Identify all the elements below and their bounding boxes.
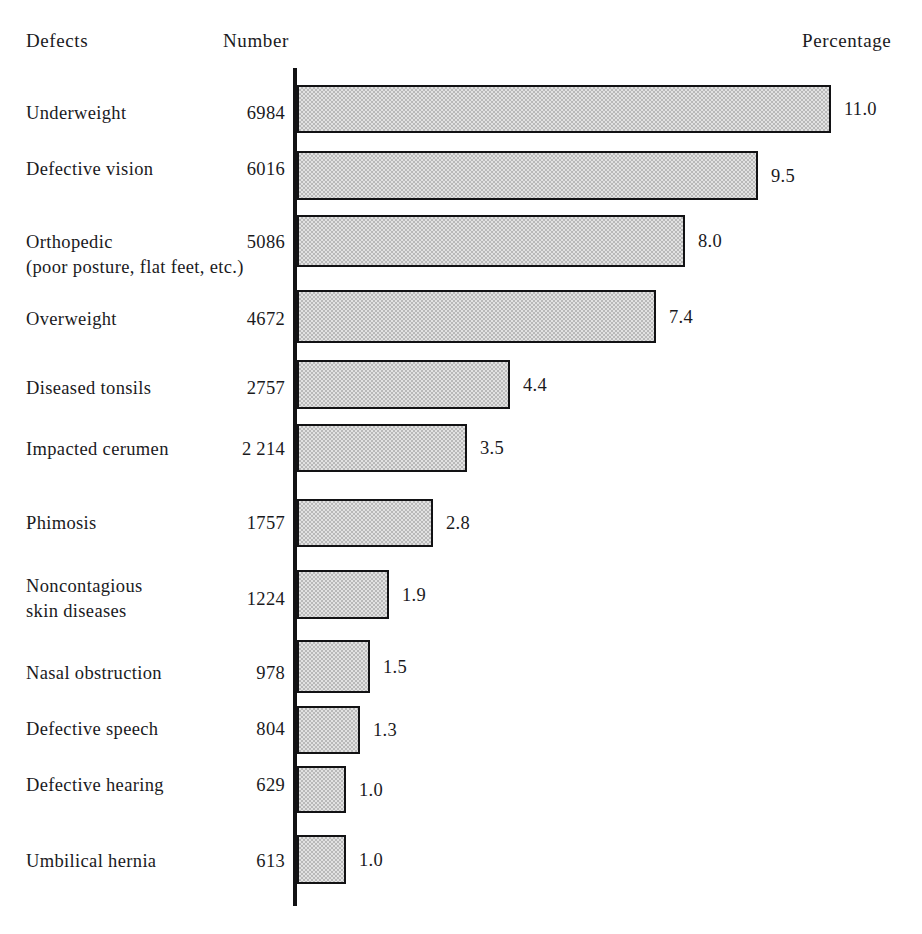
bar (297, 706, 360, 754)
bar (297, 835, 346, 884)
bar (297, 424, 467, 472)
bar-row-number: 1224 (180, 587, 285, 612)
bar (297, 640, 370, 693)
column-header-number: Number (223, 30, 289, 52)
bar (297, 85, 831, 133)
bar-row-number: 2 214 (180, 437, 285, 462)
bar-value-label: 1.3 (373, 721, 397, 740)
bar-row-number: 629 (180, 773, 285, 798)
bar (297, 360, 510, 409)
bar-chart-figure: Defects Number Percentage Underweight698… (0, 0, 922, 934)
bar-row-number: 6984 (180, 101, 285, 126)
bar (297, 290, 656, 343)
bar-value-label: 1.0 (359, 851, 383, 870)
bar-value-label: 1.9 (402, 586, 426, 605)
bar-value-label: 1.0 (359, 781, 383, 800)
bar-row-number: 1757 (180, 511, 285, 536)
bar-row-number: 613 (180, 849, 285, 874)
bar-value-label: 1.5 (383, 658, 407, 677)
column-header-defects: Defects (26, 30, 88, 52)
bar-value-label: 9.5 (771, 167, 795, 186)
bar-value-label: 2.8 (446, 514, 470, 533)
bar (297, 151, 758, 200)
bar (297, 570, 389, 619)
column-header-percentage: Percentage (802, 30, 891, 52)
bar (297, 499, 433, 547)
bar-value-label: 7.4 (669, 308, 693, 327)
bar-row-number: 4672 (180, 307, 285, 332)
bar-value-label: 3.5 (480, 439, 504, 458)
bar-row-number: 978 (180, 661, 285, 686)
bar-row-number: 5086 (180, 230, 285, 255)
bar-row-number: 6016 (180, 157, 285, 182)
bar-row-number: 2757 (180, 376, 285, 401)
bar-value-label: 4.4 (523, 376, 547, 395)
bar-row-number: 804 (180, 717, 285, 742)
bar-value-label: 8.0 (698, 232, 722, 251)
bar-value-label: 11.0 (844, 100, 877, 119)
bar (297, 766, 346, 813)
bar (297, 215, 685, 267)
